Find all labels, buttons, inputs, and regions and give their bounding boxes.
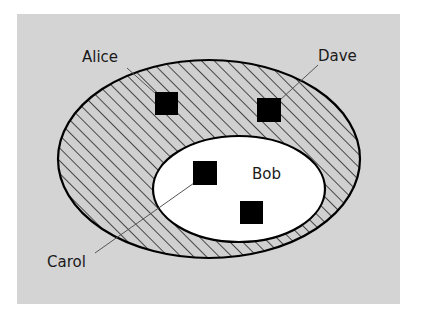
carol-element-square: [193, 161, 217, 185]
bob-label: Bob: [252, 165, 281, 183]
carol-label: Carol: [47, 253, 86, 271]
inner-set-bob-ellipse: [153, 136, 325, 242]
unlabeled-element-square: [240, 201, 263, 224]
dave-element-square: [257, 98, 281, 122]
nested-set-diagram: Alice Dave Bob Carol: [0, 0, 421, 317]
alice-element-square: [155, 92, 178, 115]
alice-label: Alice: [82, 48, 118, 66]
dave-label: Dave: [318, 47, 357, 65]
